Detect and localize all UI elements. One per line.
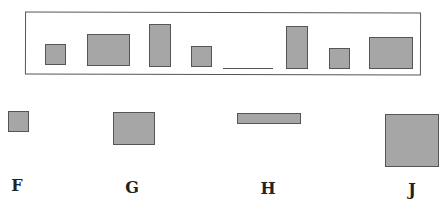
choice-g-shape[interactable] bbox=[113, 112, 155, 145]
sequence-small-square-1 bbox=[45, 44, 66, 65]
choice-h-shape[interactable] bbox=[237, 113, 301, 124]
sequence-tall-rectangle-6 bbox=[286, 26, 308, 69]
sequence-wide-rectangle-2 bbox=[87, 34, 130, 66]
choice-f-shape[interactable] bbox=[8, 111, 29, 132]
choice-h-label[interactable]: H bbox=[260, 181, 275, 197]
missing-item-blank bbox=[223, 68, 273, 69]
choice-j-label[interactable]: J bbox=[408, 182, 416, 198]
sequence-wide-rectangle-8 bbox=[369, 37, 413, 69]
choice-g-label[interactable]: G bbox=[125, 180, 139, 196]
sequence-tall-rectangle-3 bbox=[149, 24, 171, 67]
sequence-frame bbox=[25, 11, 421, 75]
choice-j-shape[interactable] bbox=[385, 114, 439, 167]
sequence-small-square-4 bbox=[191, 46, 212, 67]
choice-f-label[interactable]: F bbox=[11, 178, 22, 194]
sequence-small-square-7 bbox=[329, 48, 350, 69]
